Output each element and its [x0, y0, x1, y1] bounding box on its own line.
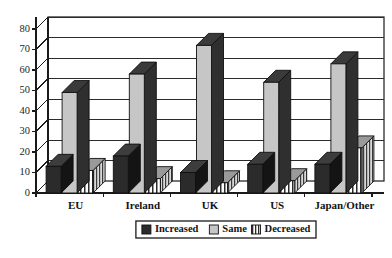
y-tick-label: 20 — [20, 146, 31, 157]
legend-entry-decreased[interactable]: Decreased — [252, 223, 311, 234]
legend-label: Same — [222, 223, 247, 234]
x-category-label: US — [270, 199, 284, 211]
bar-increased-ireland — [113, 144, 140, 193]
legend-swatch — [142, 225, 151, 234]
x-category-label: EU — [68, 199, 83, 211]
chart-canvas: 01020304050607080 EUIrelandUKUSJapan/Oth… — [0, 0, 392, 258]
chart-legend: IncreasedSameDecreased — [136, 221, 316, 238]
legend-entry-same[interactable]: Same — [209, 223, 247, 234]
y-tick-label: 30 — [20, 125, 31, 136]
legend-label: Increased — [155, 223, 199, 234]
x-category-label: Ireland — [125, 199, 160, 211]
y-tick-label: 70 — [20, 43, 31, 54]
legend-swatch — [209, 225, 218, 234]
grouped-bar-chart-figure: 01020304050607080 EUIrelandUKUSJapan/Oth… — [0, 0, 392, 258]
x-category-label: Japan/Other — [314, 199, 374, 211]
y-tick-label: 40 — [20, 105, 31, 116]
legend-entry-increased[interactable]: Increased — [142, 223, 199, 234]
legend-swatch — [252, 225, 261, 234]
y-tick-label: 60 — [20, 64, 31, 75]
y-axis-labels: 01020304050607080 — [20, 23, 31, 198]
y-tick-label: 80 — [20, 23, 31, 34]
x-category-label: UK — [202, 199, 219, 211]
y-tick-label: 0 — [25, 187, 30, 198]
y-tick-label: 50 — [20, 84, 31, 95]
legend-label: Decreased — [265, 223, 311, 234]
y-tick-label: 10 — [20, 166, 31, 177]
